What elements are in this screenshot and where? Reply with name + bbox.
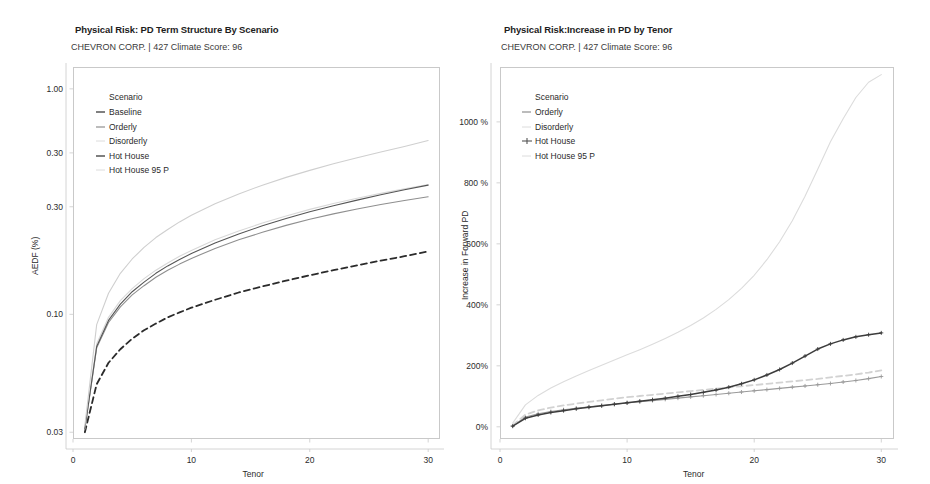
y-tick-label: 1000 % — [428, 117, 488, 127]
series-marker — [739, 390, 743, 394]
legend-item-label: Hot House 95 P — [535, 151, 595, 161]
series-line-hot-house — [85, 185, 428, 429]
y-tick-label: 0% — [428, 422, 488, 432]
series-line-disorderly — [85, 185, 428, 429]
legend-item-orderly[interactable]: Orderly — [520, 105, 595, 120]
series-marker — [600, 404, 604, 408]
series-marker — [879, 374, 883, 378]
y-tick-label: 800 % — [428, 178, 488, 188]
series-marker — [727, 385, 731, 389]
legend-item-orderly[interactable]: Orderly — [94, 120, 169, 135]
legend-key-icon — [520, 136, 535, 146]
y-tick-label: 400% — [428, 300, 488, 310]
y-tick-label: 0.30 — [3, 202, 63, 212]
series-marker — [816, 383, 820, 387]
legend-item-hot-house[interactable]: Hot House — [94, 149, 169, 164]
left-chart-panel: Physical Risk: PD Term Structure By Scen… — [0, 0, 465, 484]
legend-item-label: Hot House 95 P — [109, 165, 169, 175]
x-tick-label: 20 — [749, 455, 758, 465]
legend-item-hot-house[interactable]: Hot House — [520, 134, 595, 149]
series-marker — [803, 384, 807, 388]
right-chart-legend: Scenario OrderlyDisorderlyHot HouseHot H… — [520, 92, 595, 163]
legend-item-label: Orderly — [535, 107, 563, 117]
legend-key-icon — [94, 165, 109, 175]
legend-title: Scenario — [520, 92, 595, 102]
left-chart-canvas — [0, 0, 465, 484]
series-marker — [828, 382, 832, 386]
series-marker — [714, 392, 718, 396]
series-marker — [841, 338, 845, 342]
right-chart-panel: Physical Risk:Increase in PD by Tenor CH… — [465, 0, 930, 484]
series-marker — [828, 342, 832, 346]
x-tick-label: 10 — [187, 455, 196, 465]
legend-key-icon — [94, 107, 109, 117]
legend-title: Scenario — [94, 92, 169, 102]
series-marker — [752, 389, 756, 393]
series-marker — [587, 405, 591, 409]
series-marker — [727, 391, 731, 395]
series-marker — [841, 380, 845, 384]
right-chart-canvas — [465, 0, 930, 484]
series-marker — [765, 388, 769, 392]
y-tick-label: 200% — [428, 361, 488, 371]
y-tick-label: 600% — [428, 239, 488, 249]
series-line-orderly — [85, 197, 428, 429]
legend-item-label: Orderly — [109, 122, 137, 132]
y-tick-label: 0.30 — [3, 148, 63, 158]
legend-item-label: Baseline — [109, 107, 142, 117]
right-x-axis-label: Tenor — [683, 469, 704, 479]
series-marker — [638, 399, 642, 403]
series-line-hot-house-95-p — [85, 141, 428, 426]
series-marker — [625, 401, 629, 405]
series-marker — [867, 333, 871, 337]
series-marker — [854, 378, 858, 382]
x-tick-label: 30 — [877, 455, 886, 465]
left-chart-legend: Scenario BaselineOrderlyDisorderlyHot Ho… — [94, 92, 169, 178]
x-tick-label: 30 — [423, 455, 432, 465]
legend-key-icon — [94, 122, 109, 132]
x-tick-label: 10 — [622, 455, 631, 465]
legend-key-icon — [520, 122, 535, 132]
legend-item-label: Disorderly — [535, 122, 573, 132]
left-x-axis-label: Tenor — [243, 469, 264, 479]
x-tick-label: 0 — [71, 455, 76, 465]
y-tick-label: 0.03 — [3, 427, 63, 437]
x-tick-label: 0 — [498, 455, 503, 465]
legend-item-disorderly[interactable]: Disorderly — [94, 134, 169, 149]
x-tick-label: 20 — [305, 455, 314, 465]
legend-key-icon — [94, 151, 109, 161]
left-y-axis-label: AEDF (%) — [30, 237, 40, 275]
y-tick-label: 0.10 — [3, 309, 63, 319]
legend-item-baseline[interactable]: Baseline — [94, 105, 169, 120]
legend-item-hot-house-95-p[interactable]: Hot House 95 P — [520, 149, 595, 164]
series-marker — [752, 378, 756, 382]
series-marker — [879, 331, 883, 335]
legend-item-label: Disorderly — [109, 136, 147, 146]
series-line-baseline — [85, 251, 428, 432]
legend-item-hot-house-95-p[interactable]: Hot House 95 P — [94, 163, 169, 178]
series-marker — [867, 377, 871, 381]
series-marker — [778, 386, 782, 390]
series-marker — [854, 335, 858, 339]
legend-key-icon — [94, 136, 109, 146]
series-marker — [689, 392, 693, 396]
legend-item-label: Hot House — [535, 136, 575, 146]
legend-key-icon — [520, 151, 535, 161]
legend-item-disorderly[interactable]: Disorderly — [520, 120, 595, 135]
series-line-orderly — [513, 376, 882, 425]
series-marker — [612, 402, 616, 406]
legend-item-label: Hot House — [109, 151, 149, 161]
y-tick-label: 1.00 — [3, 84, 63, 94]
series-marker — [574, 407, 578, 411]
series-line-disorderly — [513, 370, 882, 425]
right-y-axis-label: Increase in Forward PD — [460, 211, 470, 300]
series-marker — [790, 385, 794, 389]
series-marker — [739, 382, 743, 386]
legend-key-icon — [520, 107, 535, 117]
